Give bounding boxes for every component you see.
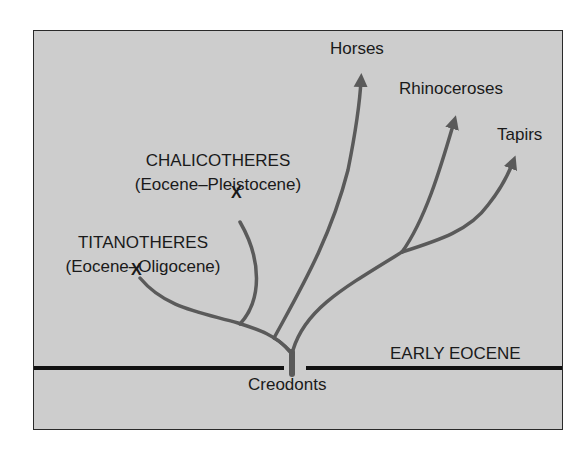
- rhinoceroses-branch: [402, 122, 454, 252]
- chalicotheres-name: CHALICOTHERES: [112, 152, 324, 169]
- chalicotheres-branch: [240, 222, 257, 324]
- right-branch: [293, 252, 402, 350]
- horses-stem: [274, 338, 290, 352]
- chalicotheres-range: (Eocene–Pleistocene): [112, 176, 324, 193]
- label-horses: Horses: [330, 40, 384, 57]
- titanotheres-range: (Eocene–Oligocene): [45, 258, 241, 275]
- tapirs-branch: [402, 162, 513, 252]
- titanotheres-branch: [140, 278, 291, 352]
- root-label: Creodonts: [248, 376, 326, 393]
- horizon-label: EARLY EOCENE: [390, 345, 521, 362]
- horses-branch: [274, 80, 361, 338]
- label-chalicotheres: CHALICOTHERES (Eocene–Pleistocene): [112, 152, 324, 193]
- label-rhinoceroses: Rhinoceroses: [399, 80, 503, 97]
- label-tapirs: Tapirs: [497, 126, 542, 143]
- label-titanotheres: TITANOTHERES (Eocene–Oligocene): [45, 234, 241, 275]
- titanotheres-name: TITANOTHERES: [45, 234, 241, 251]
